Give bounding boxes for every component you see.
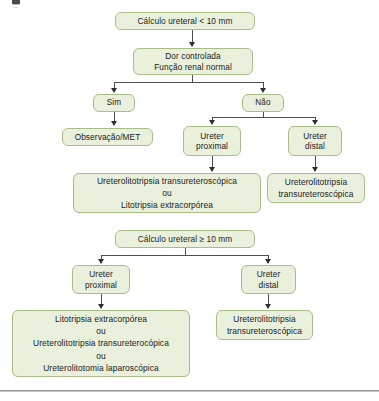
arrowhead-upper-proximal-to-treatment [209,167,215,172]
scan-artifact [13,4,19,5]
arrowhead-no-to-proximal [209,120,215,125]
arrowhead-lower-proximal-to-treatment [98,304,104,309]
node-lower-distal-treatment: Ureterolitotripsia transureteroscópica [216,310,313,340]
node-upper-criteria: Dor controlada Função renal normal [133,48,253,75]
arrowhead-lower-distal-to-treatment [265,304,271,309]
node-branch-no: Não [242,94,284,112]
node-upper-root: Cálculo ureteral < 10 mm [115,12,255,30]
node-upper-distal-treatment: Ureterolitotripsia transureteroscópica [267,173,365,203]
node-lower-root: Cálculo ureteral ≥ 10 mm [115,230,255,248]
arrowhead-upper-distal-to-treatment [312,167,318,172]
page-divider-rule-shadow [0,391,379,392]
node-upper-ureter-proximal: Ureter proximal [183,126,241,156]
node-lower-proximal-treatment: Litotripsia extracorpórea ou Ureterolito… [12,310,190,377]
arrowhead-upper-to-yes [111,88,117,93]
connector-no-bus [212,117,315,118]
connector-lower-bus [101,255,268,256]
connector-upper-yesno-bus [114,82,264,83]
arrowhead-upper-to-no [260,88,266,93]
node-upper-ureter-distal: Ureter distal [288,126,342,156]
node-observation-met: Observação/MET [62,128,153,146]
node-lower-ureter-proximal: Ureter proximal [72,265,130,294]
node-lower-ureter-distal: Ureter distal [241,265,296,294]
arrowhead-yes-to-observation [111,121,117,126]
arrowhead-no-to-distal [312,120,318,125]
arrowhead-lower-to-proximal [98,259,104,264]
flowchart-figure: Cálculo ureteral < 10 mm Dor controlada … [0,0,379,401]
scan-artifact [13,7,18,8]
arrowhead-lower-to-distal [265,259,271,264]
connector-lower-root-stem [185,248,186,255]
arrowhead-upper-root-to-criteria [189,42,195,47]
node-branch-yes: Sim [93,94,135,112]
connector-upper-criteria-stem [192,75,193,82]
node-upper-proximal-treatment: Ureterolitotripsia transureteroscópica o… [73,173,261,213]
